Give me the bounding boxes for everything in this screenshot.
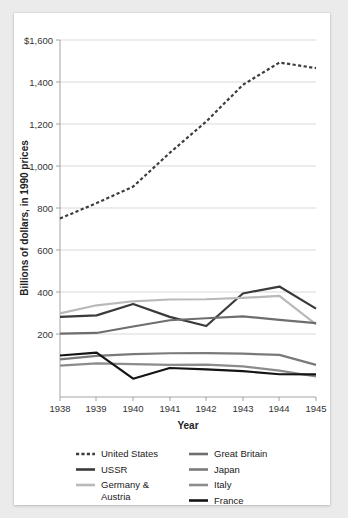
x-axis-title: Year: [177, 420, 198, 431]
x-tick-label: 1940: [122, 403, 143, 414]
y-tick-label: $1,600: [24, 35, 53, 46]
series-line: [60, 63, 316, 219]
y-tick-label: 800: [37, 203, 53, 214]
x-tick-label: 1942: [195, 403, 216, 414]
gridlines: [60, 40, 316, 334]
x-tick-label: 1941: [159, 403, 180, 414]
chart-legend: United StatesUSSRGermany &AustriaGreat B…: [76, 448, 267, 505]
series-layer: [60, 63, 316, 379]
x-tick-label: 1939: [85, 403, 106, 414]
legend-label: United States: [101, 448, 158, 459]
chart-card: $1,600 1,400 1,200 1,000 800 600 400 200…: [14, 13, 330, 505]
legend-label: France: [214, 495, 244, 505]
y-tick-marks: [56, 40, 60, 334]
y-tick-label: 1,000: [29, 161, 53, 172]
x-tick-label: 1938: [49, 403, 70, 414]
legend-label: Great Britain: [214, 448, 267, 459]
legend-label: Japan: [214, 464, 240, 475]
y-axis-title: Billions of dollars, in 1990 prices: [19, 140, 30, 296]
legend-label: Austria: [101, 491, 131, 502]
line-chart-figure: $1,600 1,400 1,200 1,000 800 600 400 200…: [14, 13, 330, 505]
x-tick-marks: [60, 397, 316, 401]
page-background: $1,600 1,400 1,200 1,000 800 600 400 200…: [0, 0, 348, 518]
x-tick-labels: 1938 1939 1940 1941 1942 1943 1944 1945: [49, 403, 326, 414]
legend-label: Germany &: [101, 479, 150, 490]
y-tick-label: 1,200: [29, 119, 53, 130]
x-tick-label: 1944: [268, 403, 289, 414]
legend-label: Italy: [214, 479, 232, 490]
y-tick-label: 1,400: [29, 77, 53, 88]
x-tick-label: 1945: [305, 403, 326, 414]
series-line: [60, 316, 316, 333]
legend-label: USSR: [101, 464, 128, 475]
y-tick-label: 200: [37, 329, 53, 340]
y-tick-label: 400: [37, 287, 53, 298]
x-tick-label: 1943: [232, 403, 253, 414]
y-tick-label: 600: [37, 245, 53, 256]
